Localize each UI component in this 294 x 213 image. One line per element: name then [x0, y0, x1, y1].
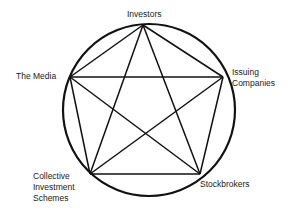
node-label-collective-investment-schemes: Collective Investment Schemes — [33, 171, 75, 204]
label-line: Investors — [127, 9, 162, 20]
label-line: Stockbrokers — [200, 179, 250, 190]
pentagram-edges — [70, 25, 223, 174]
node-label-issuing-companies: Issuing Companies — [232, 67, 275, 89]
label-line: Investment — [33, 182, 75, 193]
node-label-investors: Investors — [127, 9, 162, 20]
label-line: Issuing — [232, 67, 275, 78]
label-line: The Media — [16, 71, 56, 82]
node-label-the-media: The Media — [16, 71, 56, 82]
label-line: Collective — [33, 171, 75, 182]
pentagon-edges — [70, 25, 223, 174]
label-line: Companies — [232, 78, 275, 89]
label-line: Schemes — [33, 193, 75, 204]
node-label-stockbrokers: Stockbrokers — [200, 179, 250, 190]
